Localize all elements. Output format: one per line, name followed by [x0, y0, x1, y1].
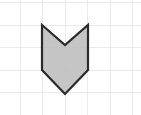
shape-layer [0, 0, 141, 115]
chevron-banner-polygon [42, 25, 88, 94]
shape-canvas [0, 0, 141, 115]
